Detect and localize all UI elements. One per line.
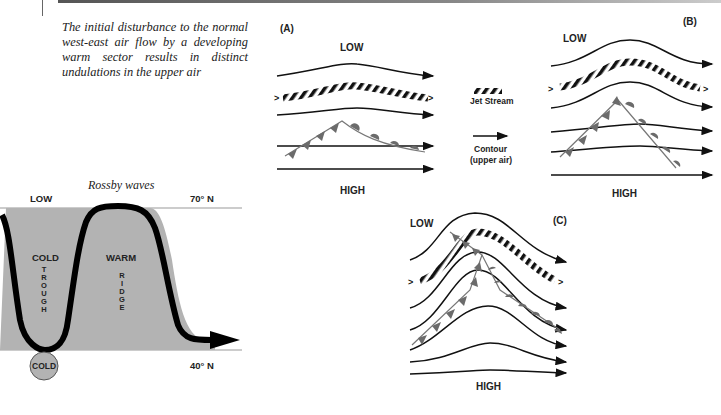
svg-text:>: > [274, 93, 279, 103]
trough-letters: T R O U G H [41, 265, 47, 314]
arrowhead-icon [210, 331, 240, 349]
svg-text:>: > [428, 93, 433, 103]
legend-jet-stream: Jet Stream [470, 96, 514, 106]
ridge-temp-label: WARM [106, 252, 136, 263]
jet-stream-swatch [474, 88, 502, 94]
panel-c-tag: (C) [553, 215, 567, 226]
lat-40-label: 40° N [190, 360, 214, 371]
panel-c-high: HIGH [476, 381, 501, 392]
legend-upper-air: (upper air) [470, 155, 512, 165]
lat-70-label: 70° N [190, 193, 214, 204]
panel-a-low: LOW [340, 42, 364, 53]
panel-b-tag: (B) [683, 16, 697, 27]
panel-c-low: LOW [410, 218, 434, 229]
panel-b-high: HIGH [612, 188, 637, 199]
svg-text:>: > [548, 84, 553, 94]
cold-pool-label: COLD [32, 361, 56, 371]
cold-front-triangles [288, 123, 339, 159]
legend-contour: Contour [474, 144, 508, 154]
svg-text:H: H [41, 305, 46, 314]
panel-b: (B) LOW HIGH > > [548, 16, 712, 199]
panel-a-tag: (A) [280, 23, 294, 34]
panel-b-low: LOW [563, 33, 587, 44]
svg-text:>: > [558, 277, 563, 287]
diagram-canvas: LOW 70° N 40° N COLD WARM COLD T R O U G… [0, 0, 721, 415]
panel-c: (C) LOW HIGH > > [408, 213, 567, 392]
panel-a-high: HIGH [340, 185, 365, 196]
ridge-letters: R I D G E [119, 271, 125, 312]
panel-a: (A) LOW HIGH > > [274, 23, 433, 196]
svg-text:>: > [703, 84, 708, 94]
svg-text:E: E [119, 303, 124, 312]
rossby-low-label: LOW [30, 193, 52, 204]
legend: Jet Stream Contour (upper air) [470, 88, 514, 165]
svg-text:>: > [408, 277, 413, 287]
rossby-wave-diagram: LOW 70° N 40° N COLD WARM COLD T R O U G… [0, 193, 242, 380]
trough-temp-label: COLD [32, 252, 59, 263]
